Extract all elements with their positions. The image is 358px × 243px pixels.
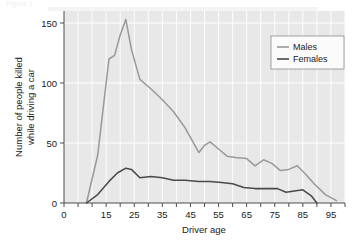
y-tick-label: 50 [46,138,57,149]
x-tick-label: 25 [129,209,140,220]
x-tick-label: 35 [157,209,168,220]
y-tick-label: 150 [41,18,57,29]
figure-container: Figure 1 0152535455565758595 050100150 D… [0,0,358,243]
x-axis-title: Driver age [182,224,226,235]
chart-legend[interactable]: Males Females [271,36,344,69]
y-tick-label: 100 [41,78,57,89]
y-axis-title-line1: Number of people killed [13,57,24,157]
legend-label-females: Females [293,54,328,64]
x-tick-label: 65 [241,209,252,220]
x-axis-tick-labels: 0152535455565758595 [61,209,336,220]
x-tick-label: 95 [326,209,337,220]
faint-header-strip: Figure 1 [0,0,358,11]
legend-label-males: Males [293,42,318,52]
x-axis-ticks [64,203,345,207]
line-chart: 0152535455565758595 050100150 Driver age… [0,0,358,243]
x-tick-label: 0 [61,209,66,220]
legend-border [271,36,344,69]
faint-header-bar [48,7,318,11]
x-tick-label: 55 [213,209,224,220]
y-axis-title-line2: while driving a car [25,69,36,146]
x-tick-label: 15 [101,209,112,220]
faint-header-text: Figure 1 [6,0,33,7]
y-tick-label: 0 [52,198,57,209]
y-axis-ticks [60,23,64,203]
x-tick-label: 75 [269,209,280,220]
x-tick-label: 85 [298,209,309,220]
y-axis-tick-labels: 050100150 [41,18,57,209]
x-tick-label: 45 [185,209,196,220]
